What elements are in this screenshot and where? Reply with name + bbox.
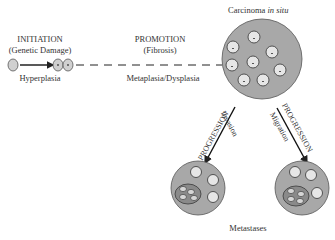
promotion-title: PROMOTION [135,35,186,44]
carcinoma-in-situ-icon [222,19,302,99]
initiation-title: INITIATION [17,35,62,44]
hyperplasia-label: Hyperplasia [19,74,60,83]
carcinoma-title-main: Carcinoma [228,5,267,15]
initiation-subtitle: (Genetic Damage) [9,46,72,55]
metaplasia-dysplasia-label: Metaplasia/Dysplasia [126,74,199,83]
normal-cell-icon [8,59,18,71]
metastases-label: Metastases [229,224,266,233]
metastasis-left-icon [171,161,225,215]
promotion-subtitle: (Fibrosis) [143,46,176,55]
carcinoma-in-situ-title: Carcinoma in situ [228,6,288,15]
dividing-cells-icon [53,59,73,71]
carcinoma-title-italic: in situ [267,5,288,15]
metastasis-right-icon [275,161,329,215]
